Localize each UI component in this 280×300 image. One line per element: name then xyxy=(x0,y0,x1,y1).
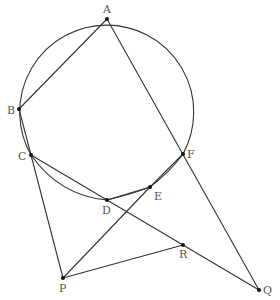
chord-ef xyxy=(150,154,183,187)
point-d xyxy=(105,198,109,202)
point-q xyxy=(257,288,261,292)
label-a: A xyxy=(102,3,112,16)
label-f: F xyxy=(187,148,195,161)
segment-pr xyxy=(63,245,183,278)
label-d: D xyxy=(102,204,111,217)
segment-ab xyxy=(19,19,107,109)
label-b: B xyxy=(7,104,15,117)
label-c: C xyxy=(18,150,26,163)
geometry-diagram: A B C D E F P R Q xyxy=(0,0,280,300)
point-c xyxy=(29,153,33,157)
point-a xyxy=(105,17,109,21)
point-r xyxy=(181,243,185,247)
label-p: P xyxy=(59,282,67,295)
chord-bc xyxy=(19,109,31,155)
label-e: E xyxy=(154,190,162,203)
circle-arc xyxy=(20,25,194,155)
label-q: Q xyxy=(263,284,272,297)
segment-cq xyxy=(31,155,259,290)
label-r: R xyxy=(179,248,188,261)
point-e xyxy=(148,185,152,189)
point-p xyxy=(61,276,65,280)
point-f xyxy=(181,152,185,156)
point-b xyxy=(17,107,21,111)
